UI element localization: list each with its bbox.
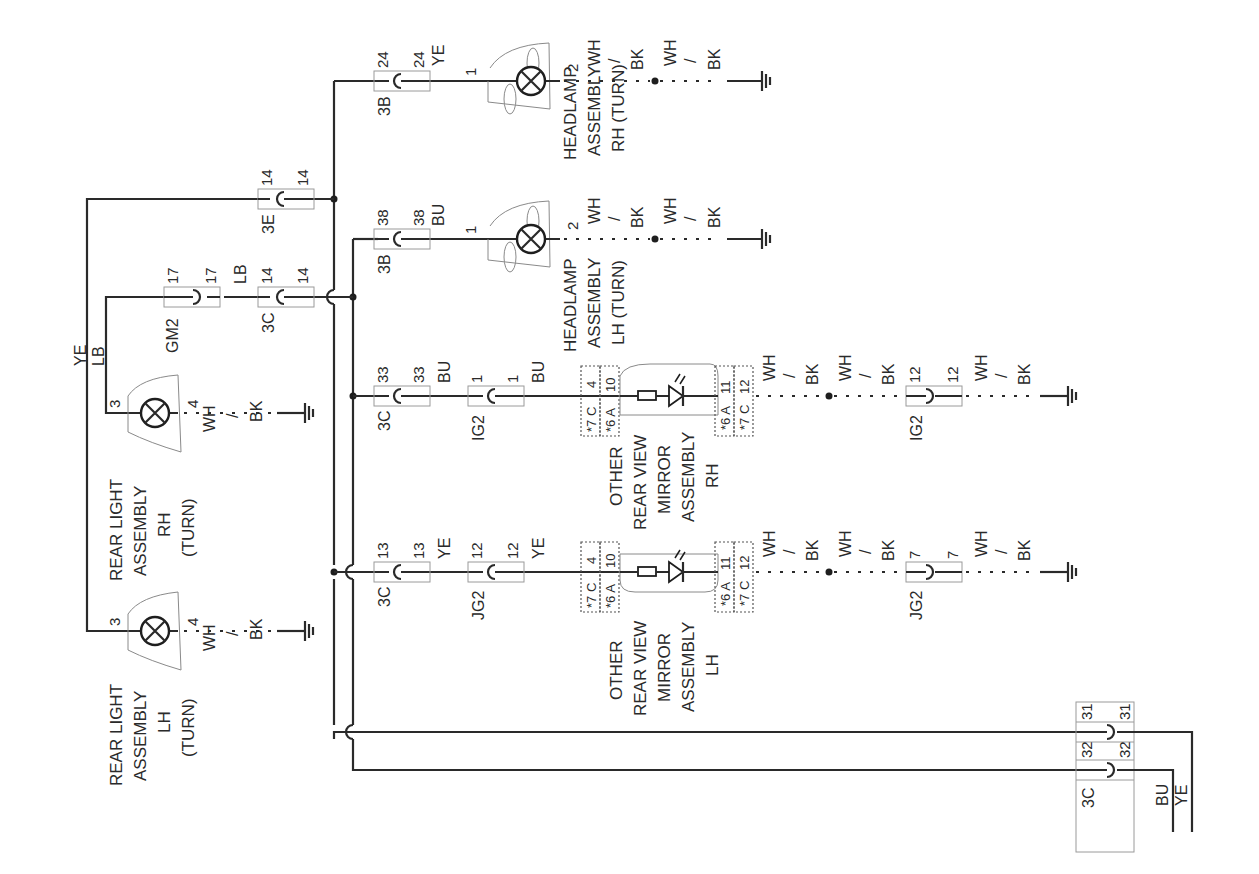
svg-text:/: /: [682, 58, 699, 63]
svg-text:ASSEMBLY: ASSEMBLY: [131, 486, 150, 576]
svg-text:24: 24: [374, 51, 391, 68]
connector-3b-38: 38 38 3B: [374, 209, 430, 274]
svg-text:WH: WH: [761, 354, 778, 381]
ground-icon: [1068, 386, 1076, 406]
mirror-lh-ground: WH / BK: [966, 530, 1076, 582]
wire-label-ye: YE: [72, 345, 89, 366]
wire-label-bu: BU: [530, 361, 547, 383]
connector-3c-14: 14 14 3C: [258, 267, 314, 333]
svg-text:OTHER: OTHER: [607, 641, 626, 701]
svg-text:*6 A: *6 A: [603, 408, 618, 432]
svg-text:12: 12: [944, 366, 961, 383]
svg-text:WH: WH: [973, 530, 990, 557]
rear-light-lh: 3 4 WH / BK REAR LIGHT ASSEMBLY LH (TURN…: [106, 592, 313, 786]
svg-text:4: 4: [184, 400, 201, 408]
svg-text:12: 12: [737, 380, 752, 394]
connector-3c-13: 13 13 3C: [374, 542, 430, 607]
svg-text:3C: 3C: [376, 411, 393, 431]
svg-text:WH: WH: [201, 624, 218, 651]
svg-text:WH: WH: [837, 354, 854, 381]
svg-text:31: 31: [1078, 703, 1095, 720]
resistor-icon: [638, 567, 656, 576]
ground-icon: [305, 403, 313, 423]
svg-text:MIRROR: MIRROR: [655, 633, 674, 702]
svg-text:BK: BK: [629, 48, 646, 70]
svg-text:WH: WH: [586, 197, 603, 224]
svg-text:3B: 3B: [376, 254, 393, 274]
connector-ig2-1: 1 1 IG2: [468, 375, 524, 441]
svg-text:11: 11: [718, 381, 733, 395]
wire-label-bu: BU: [436, 361, 453, 383]
svg-text:3: 3: [106, 400, 123, 408]
svg-text:*7 C: *7 C: [584, 407, 599, 432]
headlamp-lh: 1 2 WH / BK WH / BK HEADLAMP ASSEMBLY LH…: [462, 197, 770, 352]
svg-text:/: /: [781, 549, 798, 554]
svg-text:RH (TURN): RH (TURN): [609, 64, 628, 152]
svg-text:1: 1: [462, 226, 479, 234]
svg-text:1: 1: [504, 375, 521, 383]
svg-text:/: /: [224, 631, 241, 636]
mirror-rh: *7 C 4 *6 A 10 *6 A 11 *7 C 12 OTHER REA…: [581, 364, 753, 530]
svg-text:REAR LIGHT: REAR LIGHT: [107, 684, 126, 786]
svg-text:17: 17: [164, 267, 181, 284]
svg-text:BK: BK: [1016, 363, 1033, 385]
svg-text:ASSEMBLY: ASSEMBLY: [679, 622, 698, 712]
svg-text:3E: 3E: [260, 214, 277, 234]
wire-label-ye: YE: [1173, 785, 1190, 806]
svg-text:OTHER: OTHER: [607, 447, 626, 507]
svg-text:38: 38: [410, 209, 427, 226]
svg-text:3: 3: [106, 618, 123, 626]
wire-label-bu: BU: [430, 204, 447, 226]
svg-text:RH: RH: [703, 463, 722, 488]
svg-text:10: 10: [603, 554, 618, 568]
svg-text:LH: LH: [155, 711, 174, 733]
svg-text:WH: WH: [837, 530, 854, 557]
svg-text:/: /: [224, 413, 241, 418]
led-icon: [669, 374, 685, 406]
svg-text:BK: BK: [880, 539, 897, 561]
svg-text:BK: BK: [248, 618, 265, 640]
svg-text:/: /: [857, 373, 874, 378]
led-icon: [669, 550, 685, 582]
svg-text:/: /: [682, 216, 699, 221]
svg-text:IG2: IG2: [908, 415, 925, 441]
svg-text:12: 12: [504, 542, 521, 559]
svg-text:12: 12: [737, 556, 752, 570]
svg-text:LH (TURN): LH (TURN): [609, 260, 628, 345]
svg-text:/: /: [606, 216, 623, 221]
svg-text:*7 C: *7 C: [737, 405, 752, 430]
svg-text:WH: WH: [761, 530, 778, 557]
svg-text:*6 A: *6 A: [718, 582, 733, 606]
connector-ig2-12: 12 12 IG2: [906, 366, 962, 441]
resistor-icon: [638, 391, 656, 400]
svg-text:ASSEMBLY: ASSEMBLY: [679, 432, 698, 522]
mirror-rh-ground: WH / BK: [966, 354, 1076, 406]
bu-bus-wire: [353, 239, 1090, 770]
mirror-lh: *7 C 4 *6 A 10 *6 A 11 *7 C 12 OTHER REA…: [581, 542, 753, 716]
ground-icon: [1068, 562, 1076, 582]
svg-text:MIRROR: MIRROR: [655, 445, 674, 514]
svg-text:BK: BK: [248, 400, 265, 422]
svg-text:ASSEMBLY: ASSEMBLY: [131, 691, 150, 781]
svg-text:3C: 3C: [1080, 788, 1097, 808]
headlamp-rh: 1 2 WH / BK WH / BK HEADLAMP ASSEMBLY RH…: [462, 39, 770, 160]
svg-text:BK: BK: [804, 539, 821, 561]
svg-text:ASSEMBLY: ASSEMBLY: [585, 66, 604, 156]
ground-icon: [762, 71, 770, 91]
svg-text:JG2: JG2: [908, 591, 925, 620]
svg-text:1: 1: [462, 68, 479, 76]
svg-text:33: 33: [374, 366, 391, 383]
svg-text:4: 4: [584, 381, 599, 388]
svg-text:14: 14: [294, 169, 311, 186]
svg-text:4: 4: [584, 557, 599, 564]
svg-text:32: 32: [1078, 741, 1095, 758]
connector-3e-14: 14 14 3E: [258, 169, 314, 234]
svg-text:24: 24: [410, 51, 427, 68]
svg-text:WH: WH: [586, 39, 603, 66]
svg-text:WH: WH: [662, 197, 679, 224]
svg-text:LH: LH: [703, 654, 722, 676]
connector-3b-24: 24 24 3B: [374, 51, 430, 116]
svg-text:1: 1: [468, 375, 485, 383]
svg-text:/: /: [993, 549, 1010, 554]
svg-text:10: 10: [603, 378, 618, 392]
